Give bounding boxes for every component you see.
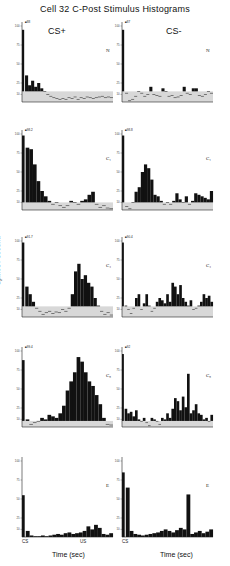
svg-text:100: 100: [15, 24, 20, 28]
svg-text:50: 50: [116, 277, 120, 281]
svg-text:■88: ■88: [25, 20, 30, 24]
svg-text:CS: CS: [122, 539, 128, 544]
svg-text:75: 75: [16, 43, 20, 47]
figure-title: Cell 32 C-Post Stimulus Histograms: [0, 4, 230, 14]
svg-text:25: 25: [16, 516, 20, 520]
svg-text:75: 75: [16, 258, 20, 262]
svg-text:100: 100: [15, 132, 20, 136]
histogram-panel-c4-cs-plus: 10255075100■91.7C₄: [18, 235, 118, 327]
x-axis-label-right: Time (sec): [160, 551, 193, 558]
svg-text:50: 50: [16, 387, 20, 391]
svg-text:25: 25: [116, 296, 120, 300]
svg-text:■99.4: ■99.4: [25, 345, 33, 349]
svg-text:■98.2: ■98.2: [25, 128, 33, 132]
svg-text:75: 75: [116, 368, 120, 372]
histogram-panel-c4-cs-minus: 10255075100■90.4C₄: [118, 235, 218, 327]
svg-text:US: US: [80, 539, 86, 544]
histogram-panel-n-cs-plus: 10255075100■88N: [18, 20, 118, 112]
svg-text:50: 50: [16, 62, 20, 66]
svg-text:75: 75: [116, 151, 120, 155]
svg-text:50: 50: [16, 170, 20, 174]
svg-text:C₄: C₄: [106, 263, 111, 268]
svg-text:100: 100: [115, 24, 120, 28]
svg-text:100: 100: [115, 239, 120, 243]
svg-text:50: 50: [116, 170, 120, 174]
svg-text:25: 25: [16, 296, 20, 300]
svg-text:75: 75: [116, 258, 120, 262]
histogram-panel-c1-cs-minus: 10255075100■98.8C₁: [118, 128, 218, 220]
svg-text:50: 50: [116, 497, 120, 501]
histogram-panel-e-cs-plus: 10255075100ECSUS: [18, 455, 118, 547]
histogram-panel-e-cs-minus: 10255075100ECS: [118, 455, 218, 547]
svg-text:75: 75: [116, 478, 120, 482]
svg-text:100: 100: [15, 239, 20, 243]
svg-text:C₈: C₈: [206, 373, 211, 378]
histogram-panel-c8-cs-minus: 10255075100■92C₈: [118, 345, 218, 437]
svg-text:N: N: [206, 48, 210, 53]
svg-text:25: 25: [116, 406, 120, 410]
svg-text:25: 25: [16, 189, 20, 193]
svg-text:100: 100: [115, 349, 120, 353]
svg-text:10: 10: [116, 417, 120, 421]
svg-text:25: 25: [16, 406, 20, 410]
svg-text:50: 50: [116, 387, 120, 391]
svg-text:10: 10: [16, 92, 20, 96]
svg-text:10: 10: [16, 417, 20, 421]
svg-text:100: 100: [115, 132, 120, 136]
histogram-panel-c1-cs-plus: 10255075100■98.2C₁: [18, 128, 118, 220]
svg-text:25: 25: [116, 81, 120, 85]
svg-text:■87: ■87: [125, 20, 130, 24]
svg-text:25: 25: [116, 516, 120, 520]
svg-text:75: 75: [16, 478, 20, 482]
svg-text:10: 10: [16, 307, 20, 311]
histogram-panel-n-cs-minus: 10255075100■87N: [118, 20, 218, 112]
svg-text:■90.4: ■90.4: [125, 235, 133, 239]
svg-text:25: 25: [16, 81, 20, 85]
svg-text:E: E: [206, 483, 209, 488]
svg-text:75: 75: [116, 43, 120, 47]
svg-text:50: 50: [16, 497, 20, 501]
svg-text:10: 10: [116, 200, 120, 204]
svg-text:E: E: [106, 483, 109, 488]
histogram-panel-c8-cs-plus: 10255075100■99.4C₈: [18, 345, 118, 437]
svg-text:C₁: C₁: [106, 156, 111, 161]
svg-text:10: 10: [116, 307, 120, 311]
svg-text:100: 100: [15, 459, 20, 463]
svg-text:10: 10: [116, 527, 120, 531]
svg-text:■92: ■92: [125, 345, 130, 349]
svg-text:100: 100: [15, 349, 20, 353]
svg-text:■98.8: ■98.8: [125, 128, 133, 132]
x-axis-label-left: Time (sec): [52, 551, 85, 558]
svg-text:C₄: C₄: [206, 263, 211, 268]
svg-text:50: 50: [116, 62, 120, 66]
svg-text:C₁: C₁: [206, 156, 211, 161]
svg-text:100: 100: [115, 459, 120, 463]
svg-text:10: 10: [116, 92, 120, 96]
svg-text:75: 75: [16, 368, 20, 372]
svg-text:CS: CS: [22, 539, 28, 544]
svg-text:C₈: C₈: [106, 373, 111, 378]
svg-text:25: 25: [116, 189, 120, 193]
svg-text:10: 10: [16, 200, 20, 204]
svg-text:N: N: [106, 48, 110, 53]
svg-text:10: 10: [16, 527, 20, 531]
svg-text:■91.7: ■91.7: [25, 235, 33, 239]
svg-text:50: 50: [16, 277, 20, 281]
y-axis-label: Spikes / second: [0, 236, 1, 285]
svg-text:75: 75: [16, 151, 20, 155]
